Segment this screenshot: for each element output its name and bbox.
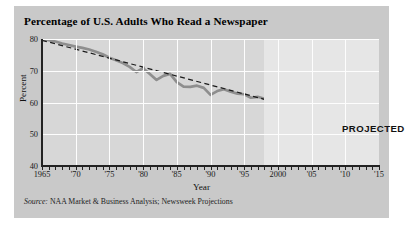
x-axis-title: Year (14, 182, 389, 192)
x-tick-1980 (143, 165, 144, 170)
y-tick-label-80: 80 (30, 35, 38, 44)
x-tick-2015 (379, 165, 380, 170)
x-tick-2005 (312, 165, 313, 170)
x-tick-2007 (325, 166, 326, 170)
x-tick-1971 (82, 166, 83, 170)
source-label: Source: (24, 197, 48, 206)
x-tick-2000 (278, 165, 279, 170)
x-tick-1981 (150, 166, 151, 170)
y-tick-label-50: 50 (30, 130, 38, 139)
chart-title: Percentage of U.S. Adults Who Read a New… (24, 15, 268, 27)
x-tick-1988 (197, 166, 198, 170)
plot-area: 4050607080 1965'70'75'80'85'90'952000'05… (42, 39, 379, 166)
y-tick-label-70: 70 (30, 66, 38, 75)
x-tick-2001 (285, 166, 286, 170)
x-tick-1998 (264, 166, 265, 170)
source-text: NAA Market & Business Analysis; Newsweek… (50, 197, 233, 206)
gridline-x-1990 (211, 39, 212, 166)
x-tick-label-1990: '90 (206, 170, 216, 179)
x-tick-1978 (130, 166, 131, 170)
gridline-x-1985 (177, 39, 178, 166)
x-tick-2003 (298, 166, 299, 170)
x-tick-2002 (291, 166, 292, 170)
x-tick-1975 (109, 165, 110, 170)
source-note: Source: NAA Market & Business Analysis; … (24, 197, 233, 206)
x-tick-1982 (157, 166, 158, 170)
x-tick-1970 (76, 165, 77, 170)
x-tick-label-1965: 1965 (34, 170, 51, 179)
x-tick-1974 (103, 166, 104, 170)
y-axis-line (41, 39, 43, 166)
x-tick-2014 (372, 166, 373, 170)
x-tick-1990 (211, 165, 212, 170)
gridline-x-2000 (278, 39, 279, 166)
x-tick-1966 (49, 166, 50, 170)
x-tick-1997 (258, 166, 259, 170)
x-tick-label-1980: '80 (138, 170, 148, 179)
x-tick-1996 (251, 166, 252, 170)
x-tick-1991 (217, 166, 218, 170)
x-tick-1985 (177, 165, 178, 170)
x-tick-label-2015: '15 (374, 170, 384, 179)
x-tick-1993 (231, 166, 232, 170)
gridline-x-2010 (345, 39, 346, 166)
x-tick-1976 (116, 166, 117, 170)
gridline-x-1970 (76, 39, 77, 166)
x-tick-label-1975: '75 (104, 170, 114, 179)
x-tick-label-2005: '05 (307, 170, 317, 179)
gridline-x-2005 (312, 39, 313, 166)
x-tick-1973 (96, 166, 97, 170)
x-tick-1983 (163, 166, 164, 170)
x-tick-1967 (55, 166, 56, 170)
x-tick-label-2010: '10 (340, 170, 350, 179)
gridline-x-1995 (244, 39, 245, 166)
x-tick-label-1970: '70 (71, 170, 81, 179)
x-tick-1995 (244, 165, 245, 170)
x-tick-label-1985: '85 (172, 170, 182, 179)
x-tick-2004 (305, 166, 306, 170)
x-tick-1987 (190, 166, 191, 170)
plot-canvas (42, 39, 379, 166)
x-tick-1972 (89, 166, 90, 170)
x-tick-1965 (42, 165, 43, 170)
x-tick-2010 (345, 165, 346, 170)
y-tick-label-60: 60 (30, 98, 38, 107)
x-tick-label-1995: '95 (239, 170, 249, 179)
x-tick-1994 (237, 166, 238, 170)
x-tick-1977 (123, 166, 124, 170)
x-tick-1969 (69, 166, 70, 170)
projected-annotation: PROJECTED (342, 123, 405, 134)
x-tick-1984 (170, 166, 171, 170)
x-tick-2006 (318, 166, 319, 170)
gridline-x-1980 (143, 39, 144, 166)
chart-figure: Percentage of U.S. Adults Who Read a New… (14, 6, 389, 218)
x-tick-1989 (204, 166, 205, 170)
x-tick-1968 (62, 166, 63, 170)
x-tick-2008 (332, 166, 333, 170)
x-tick-label-2000: 2000 (270, 170, 287, 179)
x-tick-2013 (366, 166, 367, 170)
x-tick-1992 (224, 166, 225, 170)
x-tick-1979 (136, 166, 137, 170)
x-tick-1999 (271, 166, 272, 170)
x-tick-2011 (352, 166, 353, 170)
gridline-x-1975 (109, 39, 110, 166)
x-tick-2012 (359, 166, 360, 170)
x-tick-1986 (184, 166, 185, 170)
y-axis-title: Percent (18, 74, 28, 102)
x-tick-2009 (339, 166, 340, 170)
